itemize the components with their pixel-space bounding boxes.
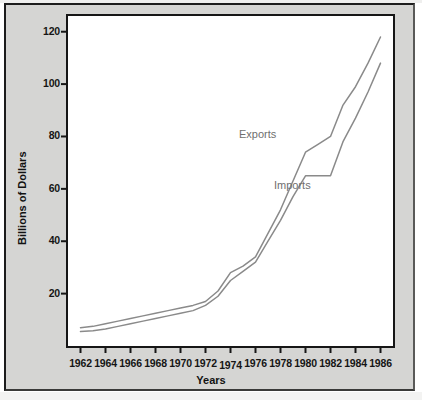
x-tick-label: 1986 <box>367 357 395 369</box>
series-line-imports <box>81 63 381 331</box>
series-label-exports: Exports <box>239 128 276 140</box>
data-series-lines <box>81 37 381 332</box>
series-line-exports <box>81 37 381 328</box>
chart-figure: 20406080100120 1962196419661968197019721… <box>0 0 422 400</box>
x-axis-title: Years <box>0 374 422 386</box>
axis-ticks <box>61 32 381 353</box>
x-tick-label: 1966 <box>117 357 145 369</box>
x-tick-label: 1976 <box>242 357 270 369</box>
x-tick-label: 1968 <box>142 357 170 369</box>
y-tick-label: 120 <box>20 25 60 37</box>
y-axis-title: Billions of Dollars <box>16 151 28 245</box>
y-tick-label: 80 <box>20 129 60 141</box>
x-tick-label: 1982 <box>317 357 345 369</box>
series-label-imports: Imports <box>274 179 311 191</box>
x-tick-label: 1970 <box>167 357 195 369</box>
chart-canvas <box>0 0 422 400</box>
x-tick-label: 1972 <box>192 357 220 369</box>
y-tick-label: 20 <box>20 287 60 299</box>
y-tick-label: 100 <box>20 77 60 89</box>
x-tick-label: 1978 <box>267 357 295 369</box>
x-tick-label: 1974 <box>217 359 245 371</box>
x-tick-label: 1964 <box>92 357 120 369</box>
x-tick-label: 1984 <box>342 357 370 369</box>
x-tick-label: 1962 <box>67 357 95 369</box>
x-tick-label: 1980 <box>292 357 320 369</box>
